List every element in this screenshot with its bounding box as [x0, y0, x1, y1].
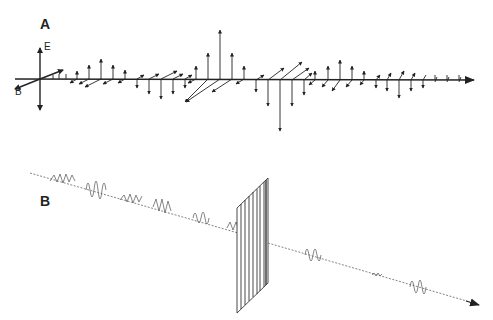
polarized-packet-2	[372, 273, 382, 276]
polarizer-plate	[237, 178, 268, 313]
polarized-beam-line	[268, 243, 470, 302]
wave-packet-5	[193, 212, 209, 224]
panel-b	[30, 173, 479, 313]
polarized-packet-1	[305, 249, 321, 261]
electromagnetic-wave-diagram	[0, 0, 493, 320]
beam-direction-arrow	[466, 301, 479, 305]
b-field-vectors	[70, 62, 461, 102]
panel-a	[15, 30, 474, 131]
b-axis-forward-arrow	[40, 70, 63, 79]
wave-packet-3	[120, 194, 142, 203]
polarized-packet-3	[410, 280, 426, 294]
propagation-axis-arrow	[15, 79, 474, 80]
wave-packet-1	[50, 174, 75, 183]
b-axis-back-arrow	[15, 79, 40, 89]
